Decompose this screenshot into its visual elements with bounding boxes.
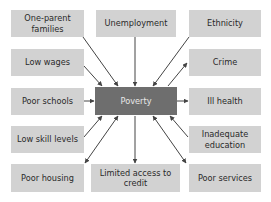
node-ethnicity: Ethnicity — [189, 10, 261, 37]
arrow-ethnicity-to-poverty — [153, 37, 189, 86]
node-label: Ethnicity — [207, 18, 243, 28]
node-label: One-parent families — [13, 13, 82, 34]
node-ill-health: Ill health — [189, 88, 261, 115]
arrow-poverty-poor-housing-two-way — [85, 116, 118, 163]
node-label: Ill health — [207, 96, 243, 106]
node-label: Low skill levels — [17, 134, 78, 144]
node-label: Poor services — [198, 173, 252, 183]
node-unemployment: Unemployment — [96, 10, 176, 37]
node-crime: Crime — [189, 49, 261, 76]
node-poor-services: Poor services — [189, 164, 261, 192]
node-inadequate-education: Inadequate education — [189, 126, 261, 153]
node-poor-schools: Poor schools — [11, 88, 84, 115]
arrow-low-wages-to-poverty — [84, 66, 102, 86]
center-label: Poverty — [121, 96, 152, 106]
node-poverty-center: Poverty — [95, 87, 177, 115]
node-one-parent-families: One-parent families — [11, 10, 84, 37]
node-poor-housing: Poor housing — [11, 164, 84, 192]
node-label: Poor housing — [21, 173, 74, 183]
node-label: Crime — [213, 57, 237, 67]
node-low-wages: Low wages — [11, 49, 84, 76]
node-label: Low wages — [25, 57, 70, 67]
node-label: Limited access to credit — [93, 168, 178, 189]
arrow-poverty-to-crime — [168, 63, 187, 86]
node-limited-access-to-credit: Limited access to credit — [91, 164, 180, 192]
arrow-inadequate-education-to-poverty — [170, 116, 188, 137]
arrow-one-parent-to-poverty — [83, 37, 118, 86]
node-label: Unemployment — [105, 18, 168, 28]
node-low-skill-levels: Low skill levels — [11, 126, 84, 153]
arrow-poverty-poor-services-two-way — [153, 116, 186, 163]
node-label: Inadequate education — [191, 129, 259, 150]
node-label: Poor schools — [22, 96, 73, 106]
arrow-low-skill-to-poverty — [84, 116, 102, 137]
